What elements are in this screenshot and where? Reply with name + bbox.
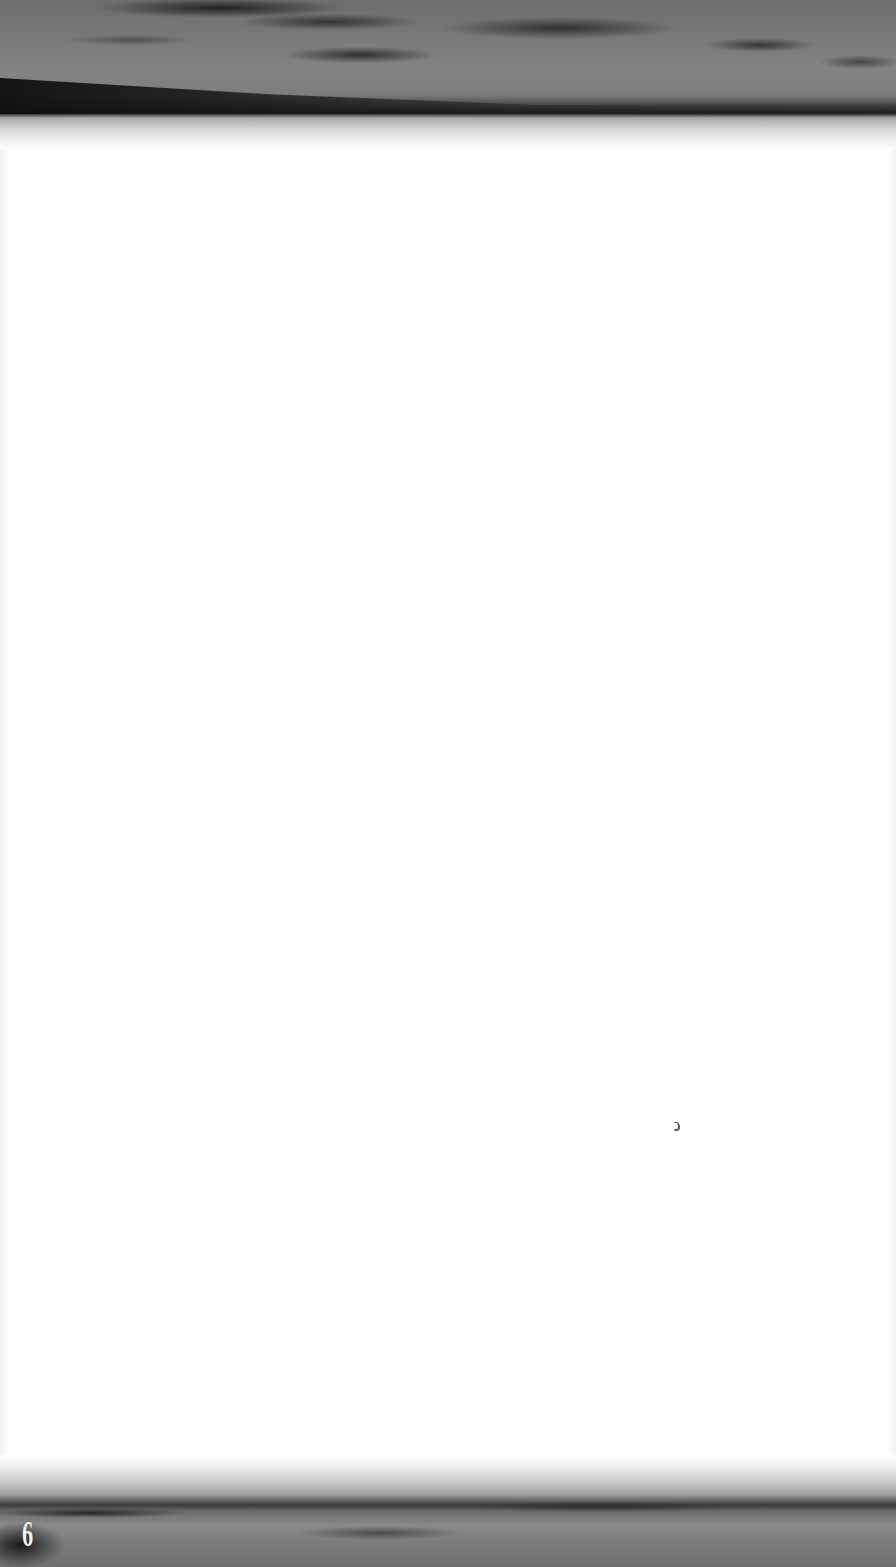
document-page: 6 — [0, 0, 896, 1567]
page-number: 6 — [22, 1514, 33, 1554]
scan-artifact-mark — [673, 1122, 680, 1131]
top-seascape-image — [0, 0, 896, 150]
page-edge-shadow-right — [888, 110, 896, 1470]
page-edge-shadow-left — [0, 110, 10, 1470]
bottom-seascape-image — [0, 1455, 896, 1567]
